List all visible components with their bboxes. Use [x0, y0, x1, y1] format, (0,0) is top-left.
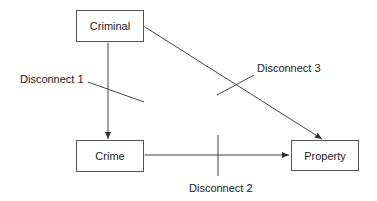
node-property: Property	[291, 140, 359, 171]
disconnect-3-label: Disconnect 3	[257, 62, 321, 74]
criminal-property-arrow	[145, 27, 322, 139]
disconnect-2-label: Disconnect 2	[189, 182, 253, 194]
node-crime: Crime	[76, 140, 144, 172]
node-property-label: Property	[304, 150, 346, 162]
node-crime-label: Crime	[95, 150, 124, 162]
disconnect-1-mark	[88, 82, 144, 102]
node-criminal-label: Criminal	[90, 20, 130, 32]
node-criminal: Criminal	[76, 10, 144, 42]
disconnect-1-label: Disconnect 1	[20, 73, 84, 85]
